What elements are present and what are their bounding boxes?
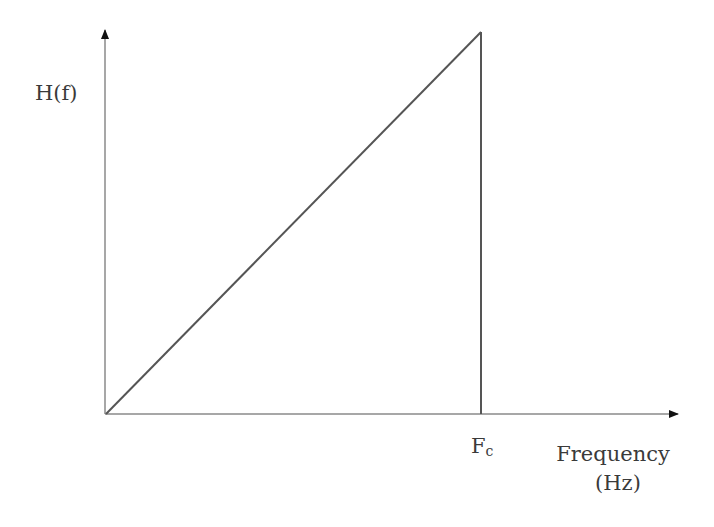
frequency-response-diagram: H(f) Fc Frequency (Hz) [0,0,714,527]
x-axis-label-line2: (Hz) [595,471,641,495]
cutoff-label: Fc [471,434,494,459]
x-axis-label-line1: Frequency [556,442,670,466]
y-axis-label: H(f) [35,81,77,105]
cutoff-label-sub: c [486,443,494,459]
response-ramp [106,32,481,414]
cutoff-label-main: F [471,434,486,458]
